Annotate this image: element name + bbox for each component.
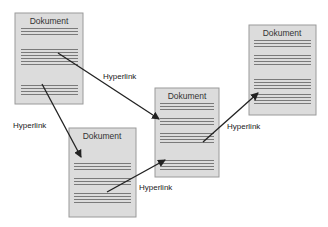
hyperlink-diagram: Dokument Dokument Dokument Dokument [0,0,328,227]
hyperlink-label: Hyperlink [103,72,137,81]
document-4[interactable]: Dokument [249,25,316,115]
text-lines [74,162,131,203]
document-title: Dokument [83,131,122,141]
document-3[interactable]: Dokument [155,88,219,177]
hyperlink-label: Hyperlink [227,122,261,131]
hyperlink-label: Hyperlink [13,121,47,130]
document-title: Dokument [168,91,207,101]
document-1[interactable]: Dokument [15,13,83,104]
document-title: Dokument [30,16,69,26]
document-page [69,128,136,217]
document-2[interactable]: Dokument [69,128,136,217]
document-title: Dokument [263,28,302,38]
hyperlink-label: Hyperlink [139,183,173,192]
